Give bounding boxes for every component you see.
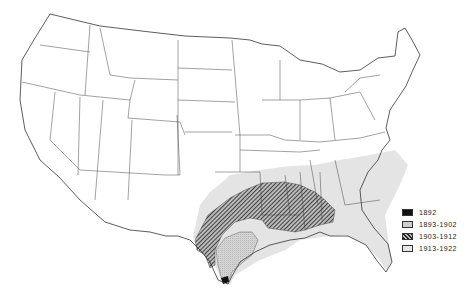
swatch-solid-icon — [402, 209, 413, 216]
legend-item-1893-1902: 1893-1902 — [402, 219, 457, 230]
legend-item-1892: 1892 — [402, 207, 457, 218]
legend-item-1903-1912: 1903-1912 — [402, 231, 457, 242]
swatch-light-icon — [402, 245, 413, 252]
legend-label: 1903-1912 — [419, 233, 457, 240]
legend-item-1913-1922: 1913-1922 — [402, 243, 457, 254]
legend: 1892 1893-1902 1903-1912 1913-1922 — [402, 207, 457, 255]
swatch-stipple-icon — [402, 221, 413, 228]
swatch-hatched-icon — [402, 233, 413, 240]
legend-label: 1913-1922 — [419, 245, 457, 252]
legend-label: 1892 — [419, 209, 437, 216]
legend-label: 1893-1902 — [419, 221, 457, 228]
